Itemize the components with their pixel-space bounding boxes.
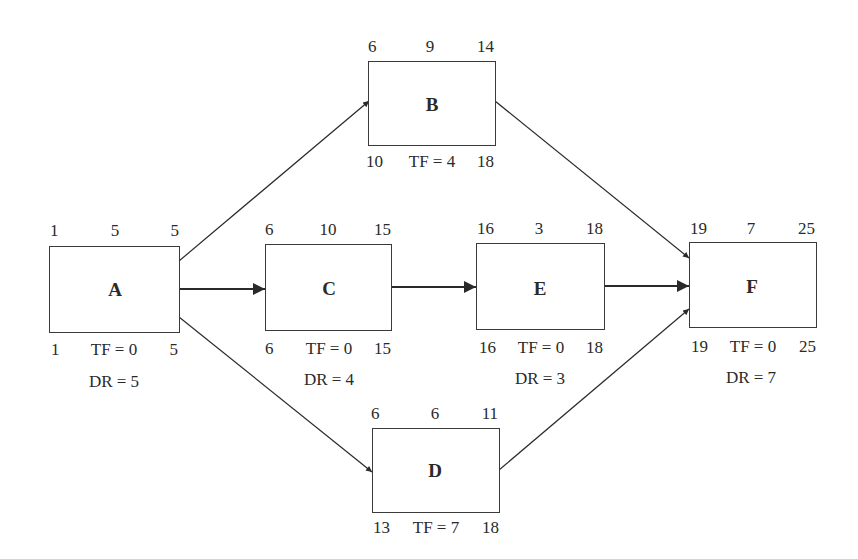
node-c-lf: 15 xyxy=(374,340,391,358)
node-f-duration: 7 xyxy=(747,220,756,238)
node-f-lf: 25 xyxy=(799,338,816,356)
node-e-drag: DR = 3 xyxy=(515,370,565,388)
node-f-drag: DR = 7 xyxy=(726,369,776,387)
node-e-duration: 3 xyxy=(535,220,544,238)
node-d-lf: 18 xyxy=(482,519,499,537)
node-e-lf: 18 xyxy=(586,339,603,357)
node-c-duration: 10 xyxy=(320,221,337,239)
node-b-duration: 9 xyxy=(426,38,435,56)
node-d-total-float: TF = 7 xyxy=(413,519,459,537)
node-b-ef: 14 xyxy=(477,38,494,56)
node-f-ls: 19 xyxy=(691,338,708,356)
node-c-ef: 15 xyxy=(374,221,391,239)
node-f-es: 19 xyxy=(690,220,707,238)
node-a-label: A xyxy=(108,279,122,301)
node-d-ls: 13 xyxy=(373,519,390,537)
node-a-es: 1 xyxy=(50,222,59,240)
node-b-es: 6 xyxy=(368,38,377,56)
node-d-ef: 11 xyxy=(482,405,498,423)
node-f-label: F xyxy=(746,276,758,298)
node-a-total-float: TF = 0 xyxy=(91,341,137,359)
node-e-es: 16 xyxy=(477,220,494,238)
arrow-a-to-b xyxy=(179,101,369,261)
node-a-drag: DR = 5 xyxy=(89,373,139,391)
arrow-d-to-f xyxy=(499,309,689,470)
node-e-ls: 16 xyxy=(479,339,496,357)
node-a-ef: 5 xyxy=(171,222,180,240)
node-a-lf: 5 xyxy=(170,341,179,359)
node-a-duration: 5 xyxy=(111,222,120,240)
node-d-es: 6 xyxy=(371,405,380,423)
node-e-label: E xyxy=(534,278,547,300)
node-c-drag: DR = 4 xyxy=(304,371,354,389)
node-b-ls: 10 xyxy=(366,153,383,171)
node-f-total-float: TF = 0 xyxy=(730,338,776,356)
node-b-lf: 18 xyxy=(477,153,494,171)
node-c-total-float: TF = 0 xyxy=(306,340,352,358)
node-e-ef: 18 xyxy=(586,220,603,238)
node-c-ls: 6 xyxy=(265,340,274,358)
node-b-label: B xyxy=(426,94,439,116)
node-d-duration: 6 xyxy=(431,405,440,423)
node-f-ef: 25 xyxy=(798,220,815,238)
node-c-label: C xyxy=(322,278,336,300)
node-c-es: 6 xyxy=(265,221,274,239)
node-e-total-float: TF = 0 xyxy=(518,339,564,357)
node-b-total-float: TF = 4 xyxy=(409,153,455,171)
node-a-ls: 1 xyxy=(51,341,60,359)
node-d-label: D xyxy=(428,460,442,482)
